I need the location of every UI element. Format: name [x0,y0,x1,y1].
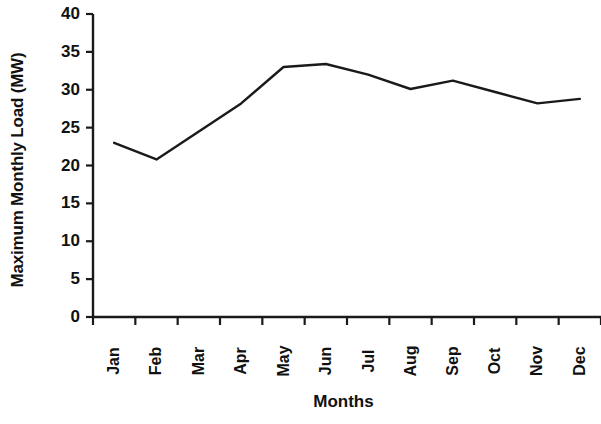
y-axis-tick-label: 5 [71,269,80,289]
y-axis-tick-label: 40 [61,4,80,24]
x-axis-tick-label-mar: Mar [189,330,209,392]
x-axis-tick-label-text: Jan [105,347,123,375]
y-axis-tick-labels: 0510152025303540 [36,0,86,340]
x-axis-tick-label-feb: Feb [147,330,167,392]
x-axis-tick-label-text: Nov [529,346,547,376]
y-axis-tick-label: 0 [71,307,80,327]
y-axis-title-label: Maximum Monthly Load (MW) [8,53,28,288]
x-axis-tick-label-aug: Aug [401,330,421,392]
plot-svg [86,0,601,340]
x-axis-tick-label-text: May [275,345,293,376]
x-axis-tick-label-nov: Nov [528,330,548,392]
x-axis-tick-label-text: Jun [317,347,335,375]
x-axis-tick-label-text: Dec [571,346,589,375]
y-axis-tick-label: 25 [61,118,80,138]
x-axis-tick-label-text: Apr [232,347,250,375]
line-chart-figure: Maximum Monthly Load (MW) 05101520253035… [0,0,601,424]
x-axis-tick-label-text: Sep [444,346,462,375]
x-axis-tick-label-text: Oct [486,348,504,375]
y-axis-tick-label: 35 [61,42,80,62]
x-axis-tick-labels: JanFebMarAprMayJunJulAugSepOctNovDec [86,326,601,392]
y-axis-tick-label: 30 [61,80,80,100]
x-axis-tick-label-jan: Jan [104,330,124,392]
data-series-group [114,64,580,159]
y-axis-tick-label: 15 [61,193,80,213]
x-axis-tick-label-text: Feb [148,347,166,375]
x-axis-tick-label-may: May [274,330,294,392]
x-axis-tick-label-text: Mar [190,347,208,375]
x-axis-tick-label-jun: Jun [316,330,336,392]
x-axis-tick-label-text: Aug [402,345,420,376]
data-line-maximum-monthly-load [114,64,580,159]
axes-group [86,14,601,325]
x-axis-title: Months [86,392,601,412]
plot-area [86,0,601,340]
x-axis-tick-label-jul: Jul [358,330,378,392]
y-axis-tick-label: 10 [61,231,80,251]
x-axis-tick-label-sep: Sep [443,330,463,392]
y-axis-title: Maximum Monthly Load (MW) [0,0,36,340]
x-axis-tick-label-oct: Oct [485,330,505,392]
x-axis-tick-label-apr: Apr [231,330,251,392]
y-axis-tick-label: 20 [61,156,80,176]
x-axis-tick-label-text: Jul [359,349,377,372]
x-axis-tick-label-dec: Dec [570,330,590,392]
